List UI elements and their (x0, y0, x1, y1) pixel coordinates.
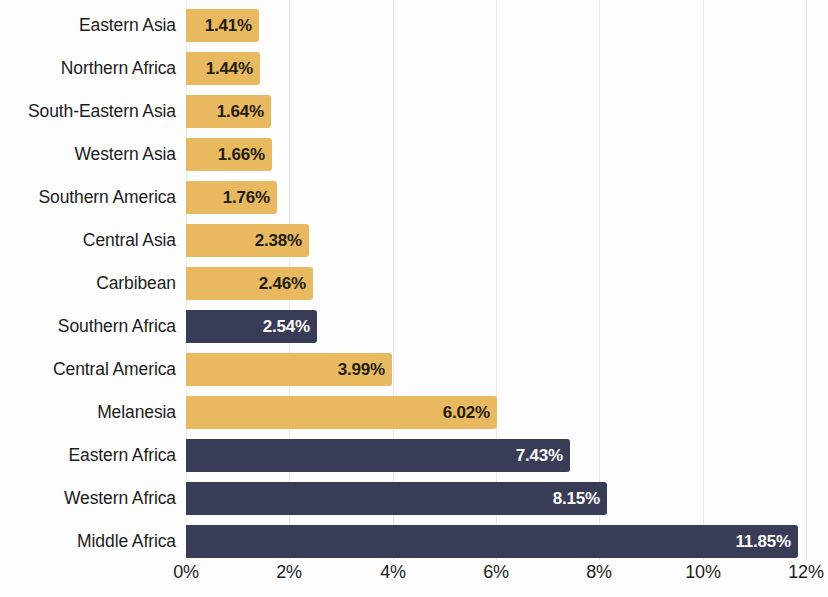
bar-row[interactable]: Southern America1.76% (0, 176, 828, 219)
bar-row[interactable]: Middle Africa11.85% (0, 520, 828, 563)
category-label: Southern America (0, 176, 176, 219)
bar-value-label: 11.85% (735, 525, 791, 558)
category-label: Eastern Asia (0, 4, 176, 47)
bar[interactable]: 2.38% (186, 224, 309, 257)
bar[interactable]: 3.99% (186, 353, 392, 386)
x-tick-label: 0% (146, 562, 226, 583)
bar-value-label: 7.43% (516, 439, 563, 472)
bar[interactable]: 7.43% (186, 439, 570, 472)
bar-row[interactable]: Eastern Africa7.43% (0, 434, 828, 477)
bar[interactable]: 6.02% (186, 396, 497, 429)
bar[interactable]: 8.15% (186, 482, 607, 515)
bar-row[interactable]: Western Africa8.15% (0, 477, 828, 520)
x-tick-label: 2% (249, 562, 329, 583)
bar-row[interactable]: Central Asia2.38% (0, 219, 828, 262)
bar[interactable]: 1.66% (186, 138, 272, 171)
bar-value-label: 2.54% (263, 310, 310, 343)
bar[interactable]: 1.41% (186, 9, 259, 42)
bar[interactable]: 1.44% (186, 52, 260, 85)
bar-row[interactable]: Eastern Asia1.41% (0, 4, 828, 47)
bar-value-label: 2.46% (259, 267, 306, 300)
x-tick-label: 12% (766, 562, 828, 583)
bar[interactable]: 1.64% (186, 95, 271, 128)
category-label: Central Asia (0, 219, 176, 262)
category-label: Middle Africa (0, 520, 176, 563)
bar[interactable]: 1.76% (186, 181, 277, 214)
bar-value-label: 6.02% (443, 396, 490, 429)
x-tick-label: 10% (663, 562, 743, 583)
bar[interactable]: 2.54% (186, 310, 317, 343)
category-label: South-Eastern Asia (0, 90, 176, 133)
category-label: Carbibean (0, 262, 176, 305)
bar-row[interactable]: Carbibean2.46% (0, 262, 828, 305)
bar-value-label: 1.66% (218, 138, 265, 171)
category-label: Western Africa (0, 477, 176, 520)
category-label: Melanesia (0, 391, 176, 434)
bar-value-label: 1.44% (206, 52, 253, 85)
bar-row[interactable]: Southern Africa2.54% (0, 305, 828, 348)
bar-row[interactable]: Melanesia6.02% (0, 391, 828, 434)
category-label: Eastern Africa (0, 434, 176, 477)
x-tick-label: 4% (353, 562, 433, 583)
category-label: Western Asia (0, 133, 176, 176)
bar-value-label: 3.99% (338, 353, 385, 386)
category-label: Southern Africa (0, 305, 176, 348)
bar-row[interactable]: Central America3.99% (0, 348, 828, 391)
x-tick-label: 8% (559, 562, 639, 583)
bar-row[interactable]: South-Eastern Asia1.64% (0, 90, 828, 133)
plot-area: Eastern Asia1.41%Northern Africa1.44%Sou… (0, 0, 828, 560)
bar-chart: Eastern Asia1.41%Northern Africa1.44%Sou… (0, 0, 828, 597)
x-tick-label: 6% (456, 562, 536, 583)
bar-value-label: 1.76% (223, 181, 270, 214)
bar-value-label: 1.64% (217, 95, 264, 128)
x-axis: 0%2%4%6%8%10%12% (0, 560, 828, 597)
bar[interactable]: 11.85% (186, 525, 798, 558)
category-label: Central America (0, 348, 176, 391)
category-label: Northern Africa (0, 47, 176, 90)
bar[interactable]: 2.46% (186, 267, 313, 300)
bar-value-label: 2.38% (255, 224, 302, 257)
bar-row[interactable]: Northern Africa1.44% (0, 47, 828, 90)
bar-row[interactable]: Western Asia1.66% (0, 133, 828, 176)
bar-value-label: 8.15% (553, 482, 600, 515)
bar-value-label: 1.41% (205, 9, 252, 42)
